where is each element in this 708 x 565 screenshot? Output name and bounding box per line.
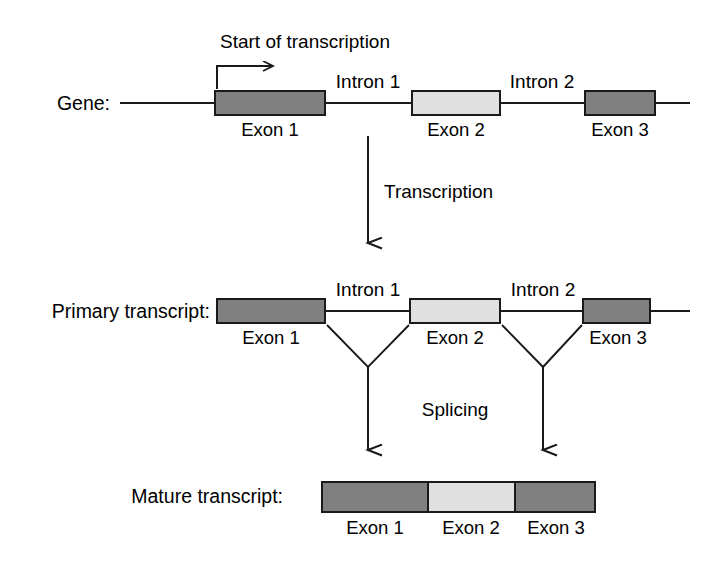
splicing-process-label: Splicing	[422, 400, 489, 419]
gene-exon-2-label: Exon 2	[427, 120, 485, 139]
mature-transcript-row-graphics	[322, 482, 595, 512]
primary-exon-1-label: Exon 1	[242, 328, 300, 347]
primary-exon-3-label: Exon 3	[589, 328, 647, 347]
mature-exon-3-label: Exon 3	[527, 518, 585, 537]
mature-exon-2-label: Exon 2	[442, 518, 500, 537]
start-of-transcription-label: Start of transcription	[220, 32, 390, 51]
transcription-process-label: Transcription	[384, 182, 493, 201]
mature-exon-2-box	[428, 482, 515, 512]
mature-exon-3-box	[515, 482, 595, 512]
primary-transcript-row-label: Primary transcript:	[52, 302, 210, 321]
gene-exon-2-box	[412, 91, 500, 115]
primary-exon-3-box	[583, 299, 650, 323]
gene-row-graphics	[120, 66, 690, 115]
gene-intron-1-label: Intron 1	[336, 72, 400, 91]
primary-intron-1-label: Intron 1	[336, 280, 400, 299]
primary-intron-2-label: Intron 2	[511, 280, 575, 299]
start-of-transcription-arrow-icon	[217, 66, 273, 89]
splice-v-right	[502, 325, 582, 367]
mature-transcript-row-label: Mature transcript:	[131, 487, 283, 506]
gene-exon-1-box	[215, 91, 325, 115]
primary-exon-2-box	[410, 299, 500, 323]
mature-exon-1-box	[322, 482, 428, 512]
gene-exon-3-box	[585, 91, 655, 115]
mature-exon-1-label: Exon 1	[346, 518, 404, 537]
primary-transcript-row-graphics	[217, 299, 690, 323]
gene-exon-1-label: Exon 1	[241, 120, 299, 139]
primary-exon-1-box	[217, 299, 325, 323]
gene-intron-2-label: Intron 2	[510, 72, 574, 91]
splice-v-left	[327, 325, 409, 367]
primary-exon-2-label: Exon 2	[426, 328, 484, 347]
gene-row-label: Gene:	[57, 94, 110, 113]
gene-exon-3-label: Exon 3	[591, 120, 649, 139]
gene-splicing-diagram: Start of transcription Gene: Intron 1 In…	[0, 0, 708, 565]
